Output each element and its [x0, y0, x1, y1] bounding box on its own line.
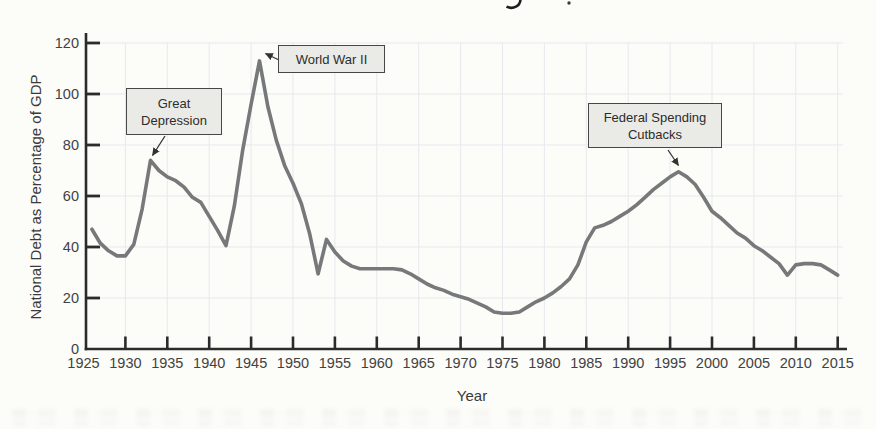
x-axis-tick-label: 1955 [319, 355, 351, 371]
x-axis-tick-label: 2005 [738, 355, 770, 371]
y-axis-tick-label: 80 [63, 137, 79, 153]
x-axis-tick-label: 2015 [822, 355, 854, 371]
x-axis-tick-label: 1940 [193, 355, 225, 371]
annotation-federal-spending-cutbacks: Federal Spending Cutbacks [588, 103, 722, 148]
y-axis-tick-label: 60 [63, 188, 79, 204]
x-axis-tick-label: 2010 [780, 355, 812, 371]
y-axis-tick-label: 40 [63, 239, 79, 255]
annotation-line: Great [127, 95, 221, 112]
x-axis-title-text: Year [457, 387, 487, 404]
annotation-line: World War II [279, 51, 384, 68]
annotation-world-war-2: World War II [278, 45, 385, 73]
chart-canvas: 0204060801001201925193019351940194519501… [0, 0, 876, 429]
figure: 0204060801001201925193019351940194519501… [0, 0, 876, 429]
federal-spending-cutbacks-arrow [668, 150, 679, 166]
x-axis-tick-label: 1960 [361, 355, 393, 371]
annotation-line: Cutbacks [589, 126, 721, 143]
x-axis-tick-label: 1975 [486, 355, 518, 371]
great-depression-arrow [153, 136, 166, 156]
x-axis-tick-label: 1950 [277, 355, 309, 371]
x-axis-tick-label: 1930 [109, 355, 141, 371]
x-axis-tick-label: 1980 [528, 355, 560, 371]
plot-layer: 0204060801001201925193019351940194519501… [55, 33, 854, 371]
cropped-title-remnant [507, 0, 571, 8]
annotation-line: Depression [127, 112, 221, 129]
x-axis-tick-label: 1935 [151, 355, 183, 371]
y-axis-tick-label: 100 [55, 86, 79, 102]
y-axis-title-text: National Debt as Percentage of GDP [27, 74, 44, 319]
x-axis-tick-label: 1985 [570, 355, 602, 371]
x-axis-tick-label: 1995 [654, 355, 686, 371]
x-axis-tick-label: 1990 [612, 355, 644, 371]
x-axis-tick-label: 1970 [444, 355, 476, 371]
y-axis-tick-label: 120 [55, 35, 79, 51]
x-axis-tick-label: 1965 [403, 355, 435, 371]
annotation-great-depression: Great Depression [126, 88, 222, 135]
y-axis-title: National Debt as Percentage of GDP [27, 52, 45, 342]
y-axis-tick-label: 20 [63, 290, 79, 306]
x-axis-tick-label: 2000 [696, 355, 728, 371]
annotation-line: Federal Spending [589, 109, 721, 126]
world-war-2-arrow [266, 54, 280, 61]
x-axis-tick-label: 1945 [235, 355, 267, 371]
x-axis-tick-label: 1925 [67, 355, 99, 371]
x-axis-title: Year [442, 387, 502, 404]
